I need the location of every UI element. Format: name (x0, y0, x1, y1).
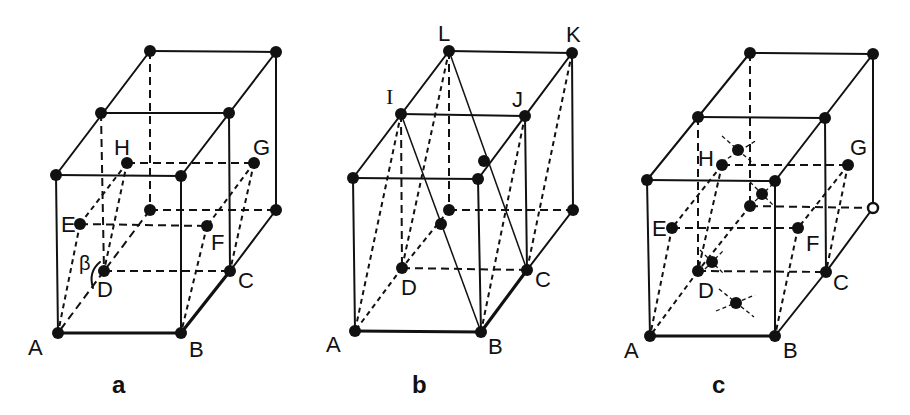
caption-c: c (712, 371, 725, 398)
panel-c: A B C D E F G H c (624, 47, 879, 398)
label-b-L: L (438, 21, 450, 46)
label-c-B: B (783, 338, 798, 363)
panel-a: A B C D E F G H β a (28, 45, 282, 398)
label-c-G: G (850, 135, 867, 160)
label-c-C: C (833, 270, 849, 295)
label-b-C: C (535, 267, 551, 292)
label-c-F: F (806, 231, 819, 256)
label-b-B: B (488, 334, 503, 359)
label-c-H: H (698, 146, 714, 171)
label-c-E: E (652, 216, 667, 241)
panel-b: A B C D I J K L b (326, 21, 581, 398)
label-b-D: D (401, 275, 417, 300)
caption-a: a (112, 371, 126, 398)
label-b-J: J (512, 87, 523, 112)
label-a-F: F (211, 230, 224, 255)
label-a-D: D (97, 277, 113, 302)
label-b-A: A (326, 332, 341, 357)
label-b-I: I (386, 84, 393, 109)
label-a-beta: β (79, 252, 91, 274)
label-a-A: A (28, 335, 43, 360)
label-a-B: B (189, 337, 204, 362)
caption-b: b (412, 371, 427, 398)
label-b-K: K (566, 22, 581, 47)
label-a-H: H (114, 135, 130, 160)
label-c-D: D (698, 278, 714, 303)
label-a-E: E (61, 212, 76, 237)
label-c-A: A (624, 338, 639, 363)
figure-canvas: A B C D E F G H β a (0, 0, 910, 415)
label-a-C: C (238, 268, 254, 293)
label-a-G: G (253, 135, 270, 160)
